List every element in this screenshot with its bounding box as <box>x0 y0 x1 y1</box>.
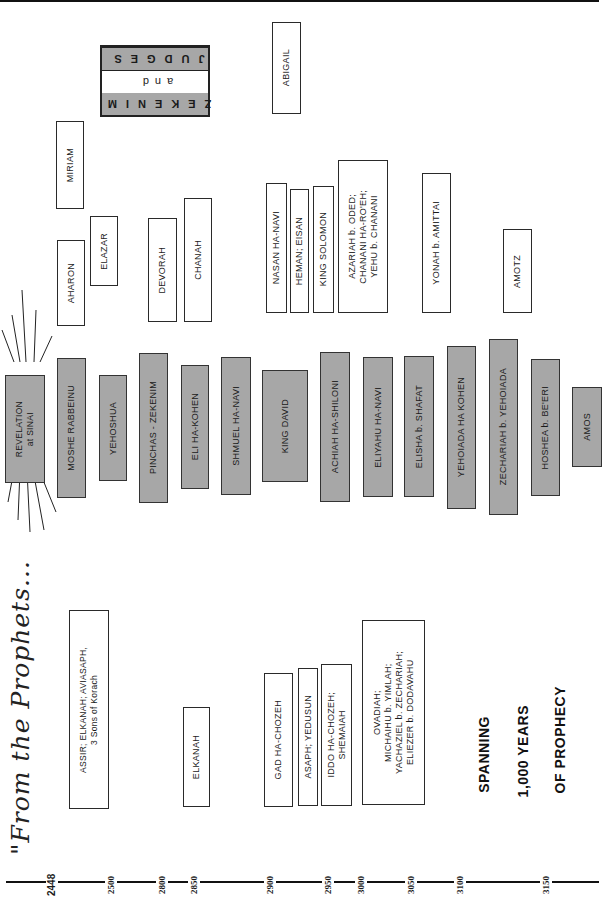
slogan-of-prophecy: OF PROPHECY <box>552 686 568 793</box>
box-eli-ha-kohen: ELI HA-KOHEN <box>181 365 209 489</box>
legend-row-zekenim: ZEKENIM <box>102 93 208 115</box>
box-amos: AMOS <box>572 387 602 467</box>
box-abigail: ABIGAIL <box>272 22 301 114</box>
box-elazar: ELAZAR <box>90 216 118 286</box>
tick-2448: 2448 <box>46 870 58 900</box>
box-zechariah-b-yehoiada: ZECHARIAH b. YEHOIADA <box>489 339 518 515</box>
box-amotz: AMOTZ <box>503 229 532 313</box>
timeline-axis <box>6 881 599 883</box>
legend-row-judges: JUDGES <box>102 47 208 70</box>
slogan-1000-years: 1,000 YEARS <box>515 705 531 797</box>
box-elkanah: ELKANAH <box>183 707 210 807</box>
tick-3100: 3100 <box>454 870 466 900</box>
top-rule <box>0 0 599 2</box>
page-title: "From the Prophets... <box>6 555 35 855</box>
tick-3050: 3050 <box>405 870 417 900</box>
box-iddo-shemaiah: IDDO HA-CHOZEH; SHEMAIAH <box>321 664 352 806</box>
tick-2850: 2850 <box>188 870 200 900</box>
box-asaph-yedusun: ASAPH; YEDUSUN <box>298 668 318 806</box>
box-chanah: CHANAH <box>184 198 212 322</box>
box-hoshea-b-beeri: HOSHEA b. BE'ERI <box>531 359 560 496</box>
tick-3000: 3000 <box>355 870 367 900</box>
box-gad-ha-chozeh: GAD HA-CHOZEH <box>264 673 293 807</box>
box-heman-eisan: HEMAN; EISAN <box>290 189 309 313</box>
tick-2800: 2800 <box>156 870 168 900</box>
legend-row-and: and <box>102 70 208 93</box>
box-shmuel-ha-navi: SHMUEL HA-NAVI <box>221 357 251 495</box>
box-azariah-chanani-yehu: AZARIAH b. ODED; CHANANI HA-RO'EH; YEHU … <box>338 160 388 313</box>
box-devorah: DEVORAH <box>148 218 177 322</box>
box-eliyahu-ha-navi: ELIYAHU HA-NAVI <box>363 357 393 497</box>
tick-2500: 2500 <box>105 870 117 900</box>
box-yehoiada-ha-kohen: YEHOIADA HA KOHEN <box>447 346 476 509</box>
box-assir-elkanah-aviasaph: ASSIR; ELKANAH; AVIASAPH, 3 Sons of Kora… <box>69 610 109 809</box>
box-achiah-ha-shiloni: ACHIAH HA-SHILONI <box>320 352 350 502</box>
box-nasan: NASAN HA-NAVI <box>266 183 287 313</box>
box-elisha-b-shafat: ELISHA b. SHAFAT <box>404 356 434 497</box>
box-king-solomon: KING SOLOMON <box>313 186 334 313</box>
box-moshe-rabbeinu: MOSHE RABBEINU <box>57 358 86 498</box>
box-pinchas-zekenim: PINCHAS - ZEKENIM <box>139 353 168 503</box>
slogan-spanning: SPANNING <box>476 716 492 793</box>
box-yehoshua: YEHOSHUA <box>99 375 127 481</box>
box-ovadiah-michaihu-yachaziel-eliezer: OVADIAH; MICHAIHU b. YIMLAH; YACHAZIEL b… <box>362 620 425 805</box>
box-miriam: MIRIAM <box>56 121 84 209</box>
tick-2950: 2950 <box>322 870 334 900</box>
tick-3150: 3150 <box>540 870 552 900</box>
tick-2900: 2900 <box>264 870 276 900</box>
box-aharon: AHARON <box>57 240 85 326</box>
box-king-david: KING DAVID <box>262 370 308 482</box>
box-yonah: YONAH b. AMITTAI <box>422 173 451 313</box>
box-revelation-at-sinai: REVELATION at SINAI <box>5 375 45 483</box>
legend-judges-zekenim: JUDGES and ZEKENIM <box>100 45 210 117</box>
